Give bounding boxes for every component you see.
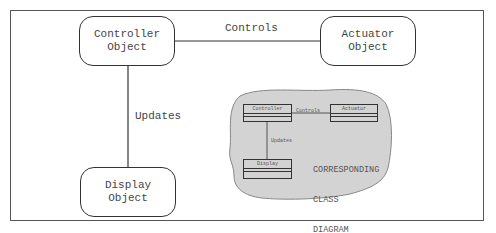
controller-object-line2: Object	[94, 41, 160, 54]
actuator-object-line2: Object	[342, 41, 395, 54]
updates-label: Updates	[135, 110, 181, 122]
display-object-line1: Display	[105, 179, 151, 192]
actuator-object-line1: Actuator	[342, 28, 395, 41]
class-controller: Controller	[243, 104, 292, 122]
class-diagram-note: CORRESPONDING CLASS DIAGRAM (the plan)	[313, 145, 379, 233]
class-updates-label: Updates	[271, 138, 292, 144]
class-divider	[244, 114, 291, 117]
note-line-3: DIAGRAM	[313, 225, 379, 233]
note-line-2: CLASS	[313, 195, 379, 205]
class-actuator-name: Actuator	[331, 105, 377, 114]
class-divider	[244, 169, 291, 172]
display-object: Display Object	[80, 167, 176, 217]
class-actuator: Actuator	[330, 104, 378, 122]
class-controller-name: Controller	[244, 105, 291, 114]
controller-object: Controller Object	[79, 16, 175, 66]
note-line-1: CORRESPONDING	[313, 165, 379, 175]
controller-object-line1: Controller	[94, 28, 160, 41]
class-controls-label: Controls	[296, 108, 320, 114]
controls-label: Controls	[225, 22, 278, 34]
class-divider	[331, 114, 377, 117]
display-object-line2: Object	[105, 192, 151, 205]
class-display-name: Display	[244, 160, 291, 169]
class-display: Display	[243, 159, 292, 179]
actuator-object: Actuator Object	[320, 16, 416, 66]
